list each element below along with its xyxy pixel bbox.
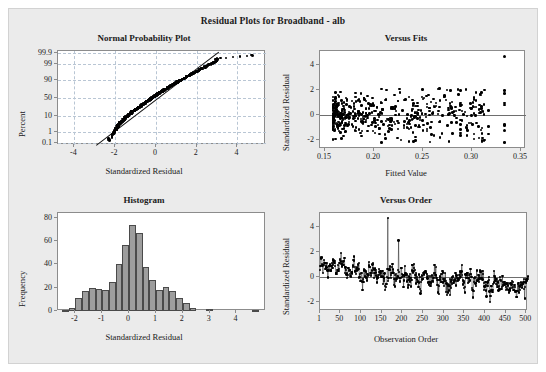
histogram-bar xyxy=(96,289,103,311)
data-point xyxy=(419,292,421,294)
data-point xyxy=(500,288,502,290)
data-point xyxy=(359,276,361,278)
data-point xyxy=(480,129,483,132)
x-tickmark xyxy=(196,144,197,147)
x-tickmark xyxy=(443,310,444,313)
data-point xyxy=(445,99,448,102)
x-tickmark xyxy=(484,310,485,313)
data-point xyxy=(487,125,490,128)
data-point xyxy=(469,268,471,270)
data-point xyxy=(333,114,336,117)
data-point xyxy=(491,291,493,293)
data-point xyxy=(376,281,378,283)
versus-fits-title: Versus Fits xyxy=(277,33,535,43)
data-point xyxy=(412,131,415,134)
data-point xyxy=(403,279,405,281)
data-point xyxy=(368,112,371,115)
data-point xyxy=(376,106,379,109)
data-point xyxy=(337,103,340,106)
y-tick-label: -2 xyxy=(307,135,314,144)
data-point xyxy=(421,119,424,122)
versus-fits-xlabel: Fitted Value xyxy=(277,168,535,178)
data-point xyxy=(487,109,490,112)
data-point xyxy=(397,239,399,241)
data-point xyxy=(414,269,416,271)
data-point xyxy=(483,139,486,142)
x-tick-label: 4 xyxy=(233,314,237,323)
data-point xyxy=(398,113,401,116)
data-point xyxy=(473,138,476,141)
data-point xyxy=(376,119,379,122)
gridline-horizontal xyxy=(58,64,266,65)
data-point xyxy=(239,55,241,57)
data-point xyxy=(338,95,341,98)
data-point xyxy=(503,55,506,58)
data-point xyxy=(378,127,381,130)
y-tick-label: 40 xyxy=(44,259,52,268)
data-point xyxy=(354,117,357,120)
histogram-bar xyxy=(163,287,170,312)
data-point xyxy=(461,110,464,113)
data-point xyxy=(406,113,409,116)
data-point xyxy=(503,123,506,126)
x-tickmark xyxy=(360,310,361,313)
data-point xyxy=(383,272,385,274)
data-point xyxy=(455,284,457,286)
data-point xyxy=(404,265,406,267)
y-tick-label: 2 xyxy=(310,84,314,93)
data-point xyxy=(408,96,411,99)
histogram-title: Histogram xyxy=(13,195,275,205)
histogram-bar xyxy=(136,233,143,311)
x-tickmark xyxy=(401,310,402,313)
data-point xyxy=(503,129,506,132)
versus-fits-ylabel: Standardized Residual xyxy=(281,74,291,151)
panel-versus-order: Versus Order Standardized Residual Obser… xyxy=(277,195,535,351)
x-tick-label: 400 xyxy=(478,314,490,323)
residual-plots-figure: Residual Plots for Broadband - alb Norma… xyxy=(8,8,538,364)
data-point xyxy=(370,124,373,127)
y-tick-label: 4 xyxy=(310,59,314,68)
y-tick-label: 99.9 xyxy=(38,48,52,57)
data-point xyxy=(463,281,465,283)
y-tickmark xyxy=(54,142,57,143)
y-tickmark xyxy=(316,114,319,115)
data-point xyxy=(453,110,456,113)
data-point xyxy=(402,286,404,288)
data-point xyxy=(454,106,457,109)
y-tickmark xyxy=(316,301,319,302)
y-tickmark xyxy=(54,217,57,218)
data-point xyxy=(451,101,454,104)
data-point xyxy=(519,289,521,291)
y-tick-label: 90 xyxy=(44,74,52,83)
x-tickmark xyxy=(324,148,325,151)
versus-order-xlabel: Observation Order xyxy=(277,334,535,344)
data-point xyxy=(339,112,342,115)
data-point xyxy=(439,136,442,139)
x-tick-label: 50 xyxy=(335,314,343,323)
x-tick-label: 1 xyxy=(317,314,321,323)
y-tick-label: 50 xyxy=(44,93,52,102)
data-point xyxy=(433,106,436,109)
data-point xyxy=(458,109,461,112)
data-point xyxy=(446,89,449,92)
x-tickmark xyxy=(339,310,340,313)
data-point xyxy=(225,57,227,59)
histogram-bar xyxy=(169,291,176,311)
data-point xyxy=(461,264,463,266)
data-point xyxy=(481,139,484,142)
data-point xyxy=(501,275,503,277)
y-tickmark xyxy=(54,240,57,241)
data-point xyxy=(361,289,363,291)
data-point xyxy=(219,57,221,59)
versus-order-title: Versus Order xyxy=(277,195,535,205)
data-point xyxy=(443,285,445,287)
data-point xyxy=(403,124,406,127)
data-point xyxy=(433,134,436,137)
x-tickmark xyxy=(422,310,423,313)
data-point xyxy=(446,124,449,127)
data-point xyxy=(472,101,475,104)
y-tickmark xyxy=(54,263,57,264)
y-tick-label: 99 xyxy=(44,59,52,68)
data-point xyxy=(360,104,363,107)
data-point xyxy=(475,99,478,102)
